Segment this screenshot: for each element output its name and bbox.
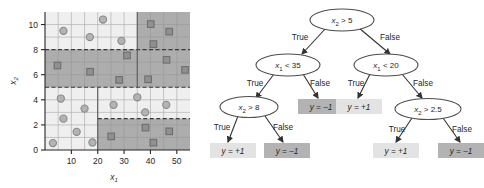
leaf-label: y = –1 xyxy=(275,147,299,156)
svg-text:x1 < 35: x1 < 35 xyxy=(274,61,301,71)
decision-tree-svg: True False True False True False True Fa… xyxy=(210,0,484,188)
scatter-plot-svg: 0 2 4 6 8 10 10 20 30 40 50 xyxy=(0,0,210,188)
data-point-circle xyxy=(86,33,93,40)
data-point-circle xyxy=(134,94,141,101)
node-value: 2.5 xyxy=(431,105,443,114)
x-tick-label: 40 xyxy=(146,156,156,166)
tree-node-root[interactable]: x2 > 5 xyxy=(310,9,374,31)
data-point-square xyxy=(124,52,131,59)
leaf-label: y = +1 xyxy=(347,103,371,112)
data-point-square xyxy=(116,77,123,84)
leaf-label: y = +1 xyxy=(221,147,245,156)
node-value: 20 xyxy=(390,61,399,70)
node-value: 35 xyxy=(292,61,301,70)
edge-label-true: True xyxy=(389,125,406,134)
scatter-plot-panel: 0 2 4 6 8 10 10 20 30 40 50 xyxy=(0,0,210,188)
x-axis-tick-labels: 10 20 30 40 50 xyxy=(67,156,182,166)
svg-text:x2: x2 xyxy=(8,77,19,86)
data-point-circle xyxy=(60,27,67,34)
leaf-label: y = –1 xyxy=(309,103,333,112)
edge-label-false: False xyxy=(273,123,293,132)
data-point-circle xyxy=(110,101,117,108)
data-point-circle xyxy=(118,37,125,44)
svg-text:x2 > 2.5: x2 > 2.5 xyxy=(413,105,442,115)
edge-label-true: True xyxy=(348,79,365,88)
data-point-circle xyxy=(57,95,64,102)
tree-node-left[interactable]: x1 < 35 xyxy=(256,54,320,76)
y-tick-label: 8 xyxy=(33,45,38,55)
y-tick-label: 2 xyxy=(33,120,38,130)
edge-label-false: False xyxy=(413,79,433,88)
y-axis-ticks xyxy=(41,25,45,150)
edge-label-true: True xyxy=(292,33,309,42)
data-point-circle xyxy=(163,101,170,108)
leaf-label: y = –1 xyxy=(449,147,473,156)
tree-node-right[interactable]: x1 < 20 xyxy=(354,54,418,76)
data-point-square xyxy=(142,124,149,131)
data-point-circle xyxy=(99,16,106,23)
data-point-circle xyxy=(73,128,80,135)
node-value: 8 xyxy=(255,103,260,112)
tree-leaf-right-true-positive[interactable]: y = +1 xyxy=(336,99,382,114)
tree-node-right-right[interactable]: x2 > 2.5 xyxy=(395,99,461,120)
data-point-square xyxy=(166,128,173,135)
data-point-circle xyxy=(142,109,149,116)
data-point-square xyxy=(150,41,157,48)
edge-label-true: True xyxy=(247,79,264,88)
svg-text:x1 < 20: x1 < 20 xyxy=(372,61,399,71)
y-axis-title-sub: 2 xyxy=(13,77,19,82)
decision-tree-panel: True False True False True False True Fa… xyxy=(210,0,484,188)
x-tick-label: 50 xyxy=(172,156,182,166)
x-tick-label: 30 xyxy=(119,156,129,166)
tree-leaf-rightright-true-positive[interactable]: y = +1 xyxy=(373,143,419,158)
x-axis-title-sub: 1 xyxy=(114,177,117,183)
edge-label-true: True xyxy=(214,123,231,132)
x-tick-label: 10 xyxy=(67,156,77,166)
leaf-label: y = +1 xyxy=(384,147,408,156)
data-point-circle xyxy=(81,105,88,112)
data-point-square xyxy=(87,68,94,75)
svg-text:x2 > 8: x2 > 8 xyxy=(238,103,260,113)
x-axis-ticks xyxy=(71,150,176,154)
y-axis-tick-labels: 0 2 4 6 8 10 xyxy=(29,20,39,156)
data-point-square xyxy=(145,76,152,83)
data-point-square xyxy=(166,28,173,35)
tree-leaf-leftleft-true-positive[interactable]: y = +1 xyxy=(210,143,256,158)
tree-node-left-left[interactable]: x2 > 8 xyxy=(220,97,278,118)
edge-label-false: False xyxy=(380,33,400,42)
y-axis-title: x2 xyxy=(8,77,19,86)
tree-leaf-rightright-false-negative[interactable]: y = –1 xyxy=(438,143,484,158)
x-axis-title: x1 xyxy=(109,172,118,183)
svg-text:x1: x1 xyxy=(109,172,118,183)
node-value: 5 xyxy=(348,16,353,25)
x-tick-label: 20 xyxy=(93,156,103,166)
y-tick-label: 4 xyxy=(33,95,38,105)
y-tick-label: 6 xyxy=(33,70,38,80)
data-point-square xyxy=(150,139,157,146)
data-point-square xyxy=(108,133,115,140)
data-point-square xyxy=(54,62,61,69)
data-point-square xyxy=(163,57,170,64)
data-point-square xyxy=(182,67,189,74)
svg-text:x2 > 5: x2 > 5 xyxy=(331,16,353,26)
tree-leaf-leftleft-false-negative[interactable]: y = –1 xyxy=(264,143,310,158)
figure-decision-tree-and-partition: 0 2 4 6 8 10 10 20 30 40 50 xyxy=(0,0,484,188)
data-point-circle xyxy=(89,139,96,146)
edge-label-false: False xyxy=(452,125,472,134)
y-tick-label: 10 xyxy=(29,20,39,30)
data-point-square xyxy=(147,21,154,28)
data-point-circle xyxy=(49,140,56,147)
y-tick-label: 0 xyxy=(33,145,38,155)
edge-label-false: False xyxy=(310,79,330,88)
data-point-circle xyxy=(60,115,67,122)
